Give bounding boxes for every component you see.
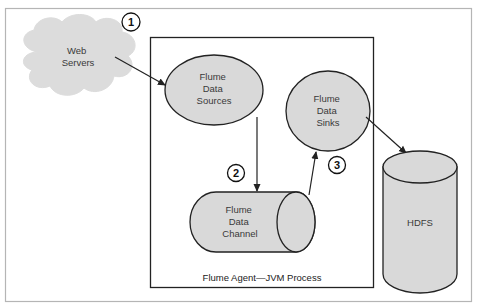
hdfs-label: HDFS <box>407 217 433 228</box>
step-2-badge: 2 <box>228 165 245 182</box>
flume-data-channel-node: Flume Data Channel <box>190 192 315 252</box>
flume-data-sinks-node: Flume Data Sinks <box>286 71 370 151</box>
step-3-badge: 3 <box>329 157 346 174</box>
svg-text:2: 2 <box>233 167 239 179</box>
jvm-process-caption: Flume Agent—JVM Process <box>203 272 322 283</box>
svg-text:1: 1 <box>128 16 134 28</box>
flume-architecture-diagram: Web Servers 1 Flume Data Sources Flume D… <box>0 0 477 308</box>
step-1-badge: 1 <box>122 13 140 31</box>
flume-data-sources-node: Flume Data Sources <box>165 55 263 125</box>
database-icon <box>383 167 457 293</box>
sinks-label: Flume Data Sinks <box>313 93 342 128</box>
hdfs-node: HDFS <box>383 151 457 293</box>
svg-text:3: 3 <box>334 159 340 171</box>
